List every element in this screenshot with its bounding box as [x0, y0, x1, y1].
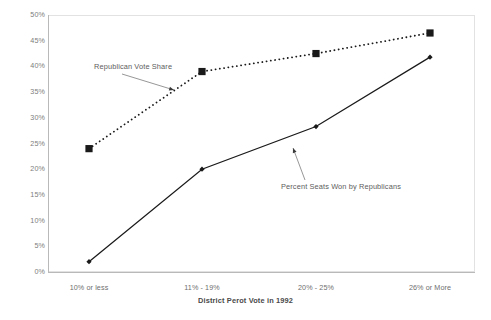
annotation-republican-vote-share: Republican Vote Share: [94, 63, 172, 70]
annotation-percent-seats-won: Percent Seats Won by Republicans: [281, 183, 401, 190]
annotation-percent-seats-won-leader-line: [293, 148, 305, 180]
chart-page: 0%5%10%15%20%25%30%35%40%45%50% 10% or l…: [0, 0, 491, 320]
series-line-1: [89, 33, 430, 149]
data-point-marker: [85, 145, 92, 152]
data-point-marker: [198, 68, 205, 75]
series-line-2: [89, 57, 430, 262]
annotation-republican-vote-share-arrowhead: [169, 87, 174, 91]
annotation-republican-vote-share-leader-line: [122, 74, 174, 90]
data-point-marker: [426, 29, 433, 36]
annotation-percent-seats-won-arrowhead: [293, 148, 297, 153]
series-layer: [0, 0, 491, 320]
data-point-marker: [312, 50, 319, 57]
